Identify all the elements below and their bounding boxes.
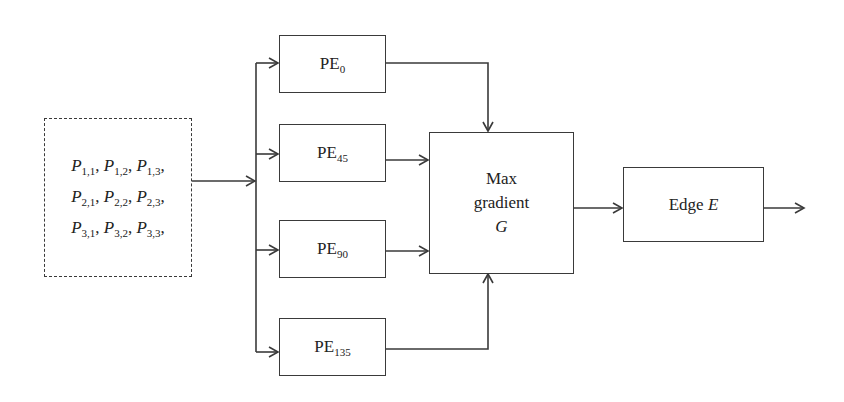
pe-45-block: PE45 [279, 124, 386, 182]
pixel-index: 3,3 [147, 227, 161, 239]
input-row-1: P1,1, P1,2, P1,3, [71, 156, 165, 177]
pixel-var: P [71, 187, 81, 206]
pixel-var: P [71, 218, 81, 237]
max-gradient-block: Max gradient G [429, 132, 574, 274]
pixel-var: P [71, 156, 81, 175]
pixel-index: 1,2 [114, 165, 128, 177]
pixel-var: P [104, 156, 114, 175]
pixel-index: 2,2 [114, 196, 128, 208]
pe-135-label: PE135 [314, 337, 350, 358]
pixel-index: 1,1 [82, 165, 96, 177]
pe-0-block: PE0 [279, 35, 386, 93]
pixel-var: P [104, 187, 114, 206]
pixel-var: P [136, 218, 146, 237]
pe-135-block: PE135 [279, 318, 386, 376]
pe-45-label: PE45 [317, 143, 348, 164]
pixel-index: 2,3 [147, 196, 161, 208]
pixel-index: 3,2 [114, 227, 128, 239]
input-pixel-grid: P1,1, P1,2, P1,3, P2,1, P2,2, P2,3, P3,1… [71, 156, 165, 239]
max-gradient-symbol: G [474, 215, 530, 239]
pe-90-block: PE90 [279, 220, 386, 278]
input-pixel-block: P1,1, P1,2, P1,3, P2,1, P2,2, P2,3, P3,1… [44, 118, 192, 277]
pe0-to-max-arrow [385, 63, 488, 131]
max-gradient-line2: gradient [474, 191, 530, 215]
pixel-var: P [136, 187, 146, 206]
pixel-index: 1,3 [147, 165, 161, 177]
edge-block: Edge E [623, 167, 764, 242]
pe135-to-max-arrow [385, 274, 488, 349]
input-row-2: P2,1, P2,2, P2,3, [71, 187, 165, 208]
pixel-var: P [104, 218, 114, 237]
edge-label: Edge E [669, 195, 719, 215]
pixel-var: P [136, 156, 146, 175]
max-gradient-label: Max gradient G [474, 167, 530, 239]
pe-90-label: PE90 [317, 239, 348, 260]
pe-0-label: PE0 [320, 54, 345, 75]
input-row-3: P3,1, P3,2, P3,3, [71, 218, 165, 239]
max-gradient-line1: Max [474, 167, 530, 191]
pixel-index: 2,1 [82, 196, 96, 208]
pixel-index: 3,1 [82, 227, 96, 239]
